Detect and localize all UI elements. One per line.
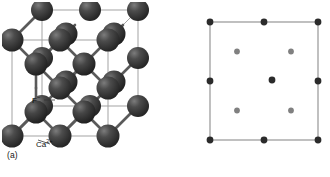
calcium-ion-label: Ca2+ xyxy=(36,140,53,149)
panel-a-crystal-structure: F− Ca2+ (a) xyxy=(0,0,165,177)
panel-b-projection: (0,1) (¼, ¾) ½ (0,1) (b) xyxy=(165,0,330,177)
center-lattice-site xyxy=(269,77,276,84)
interior-lattice-sites xyxy=(234,49,294,114)
panel-a-caption: (a) xyxy=(7,150,18,160)
label-leader-lines xyxy=(0,0,165,177)
unit-cell-projection-diagram xyxy=(165,0,330,177)
boundary-lattice-sites xyxy=(207,19,322,144)
cell-outline xyxy=(210,22,318,140)
fluoride-ion-label: F− xyxy=(32,96,40,105)
figure-container: F− Ca2+ (a) xyxy=(0,0,330,177)
